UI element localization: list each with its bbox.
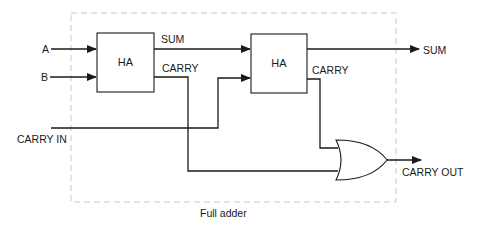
carry-out-label: CARRY OUT (402, 166, 464, 178)
ha2-carry-wire (307, 79, 338, 148)
sum-output-label: SUM (423, 44, 446, 56)
half-adder-2: HA (251, 34, 307, 93)
carry-in-label: CARRY IN (17, 133, 67, 145)
diagram-title: Full adder (200, 207, 247, 219)
half-adder-1: HA (97, 33, 154, 92)
input-b-label: B (41, 71, 48, 83)
input-a-label: A (42, 43, 49, 55)
full-adder-diagram: HA HA A B SUM CARRY CARRY IN SUM CARRY C… (0, 0, 479, 227)
ha1-carry-wire (154, 77, 338, 171)
ha1-sum-label: SUM (161, 33, 184, 45)
or-gate (336, 140, 387, 180)
ha2-carry-label: CARRY (312, 64, 349, 76)
ha1-carry-label: CARRY (162, 62, 199, 74)
half-adder-1-label: HA (118, 56, 134, 68)
half-adder-2-label: HA (271, 57, 287, 69)
